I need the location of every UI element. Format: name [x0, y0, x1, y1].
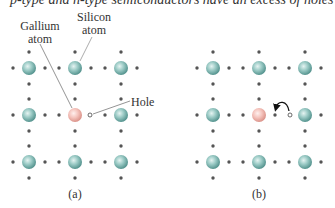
electron-dot — [11, 66, 14, 69]
electron-dot — [319, 66, 322, 69]
electron-dot — [103, 160, 106, 163]
electron-dot — [135, 160, 138, 163]
electron-dot — [11, 113, 14, 116]
electron-dot — [227, 160, 230, 163]
silicon-label-line2: atom — [68, 24, 120, 37]
panel-b-lattice — [195, 50, 322, 179]
electron-dot — [103, 113, 106, 116]
electron-dot — [241, 66, 244, 69]
silicon-atom — [114, 61, 128, 75]
silicon-atom — [252, 155, 266, 169]
electron-dot — [73, 82, 76, 85]
silicon-atom — [206, 108, 220, 122]
electron-dot — [211, 82, 214, 85]
electron-dot — [257, 176, 260, 179]
silicon-atom — [114, 155, 128, 169]
electron-dot — [303, 144, 306, 147]
electron-dot — [135, 66, 138, 69]
electron-dot — [43, 66, 46, 69]
electron-dot — [57, 160, 60, 163]
electron-dot — [89, 66, 92, 69]
silicon-atom-label: Silicon atom — [68, 11, 120, 37]
electron-dot — [119, 176, 122, 179]
silicon-atom — [68, 155, 82, 169]
silicon-atom — [298, 155, 312, 169]
electron-dot — [27, 129, 30, 132]
electron-dot — [319, 113, 322, 116]
electron-dot — [43, 160, 46, 163]
electron-dot — [119, 97, 122, 100]
electron-dot — [57, 113, 60, 116]
electron-dot — [241, 113, 244, 116]
electron-dot — [195, 160, 198, 163]
electron-dot — [227, 66, 230, 69]
electron-dot — [211, 50, 214, 53]
electron-dot — [303, 176, 306, 179]
hole-icon — [88, 113, 92, 117]
electron-dot — [211, 144, 214, 147]
silicon-atom — [206, 61, 220, 75]
electron-dot — [119, 50, 122, 53]
electron-dot — [119, 129, 122, 132]
gallium-label-line2: atom — [14, 33, 66, 46]
electron-dot — [119, 144, 122, 147]
electron-dot — [287, 66, 290, 69]
electron-dot — [257, 50, 260, 53]
gallium-atom — [252, 108, 266, 122]
electron-dot — [195, 66, 198, 69]
gallium-pointer-line — [40, 44, 72, 108]
silicon-atom — [22, 155, 36, 169]
electron-dot — [89, 160, 92, 163]
electron-dot — [227, 113, 230, 116]
electron-dot — [257, 97, 260, 100]
electron-dot — [287, 160, 290, 163]
panel-a-caption: (a) — [60, 188, 90, 201]
electron-dot — [43, 113, 46, 116]
electron-dot — [73, 97, 76, 100]
electron-dot — [57, 66, 60, 69]
electron-dot — [27, 82, 30, 85]
electron-dot — [73, 144, 76, 147]
panel-a-lattice — [11, 50, 138, 179]
gallium-atom-label: Gallium atom — [14, 20, 66, 46]
electron-dot — [257, 82, 260, 85]
silicon-atom — [206, 155, 220, 169]
electron-dot — [303, 50, 306, 53]
panel-b-caption: (b) — [244, 188, 274, 201]
electron-dot — [119, 82, 122, 85]
electron-dot — [303, 129, 306, 132]
electron-dot — [273, 113, 276, 116]
electron-dot — [27, 144, 30, 147]
electron-dot — [211, 176, 214, 179]
silicon-atom — [114, 108, 128, 122]
silicon-atom — [252, 61, 266, 75]
electron-dot — [195, 113, 198, 116]
electron-dot — [73, 176, 76, 179]
silicon-atom — [298, 61, 312, 75]
electron-dot — [303, 82, 306, 85]
silicon-atom — [68, 61, 82, 75]
gallium-atom — [68, 108, 82, 122]
silicon-pointer-line — [80, 37, 92, 61]
hole-icon — [288, 113, 292, 117]
electron-dot — [319, 160, 322, 163]
silicon-atom — [298, 108, 312, 122]
electron-dot — [257, 144, 260, 147]
electron-dot — [11, 160, 14, 163]
hole-label: Hole — [131, 96, 154, 109]
electron-dot — [73, 129, 76, 132]
electron-dot — [27, 176, 30, 179]
electron-dot — [211, 97, 214, 100]
electron-dot — [273, 160, 276, 163]
silicon-atom — [22, 108, 36, 122]
electron-dot — [103, 66, 106, 69]
electron-dot — [27, 97, 30, 100]
silicon-atom — [22, 61, 36, 75]
curved-arrow-icon — [276, 102, 289, 111]
electron-dot — [135, 113, 138, 116]
electron-dot — [211, 129, 214, 132]
electron-dot — [257, 129, 260, 132]
electron-dot — [303, 97, 306, 100]
electron-dot — [73, 50, 76, 53]
electron-dot — [273, 66, 276, 69]
